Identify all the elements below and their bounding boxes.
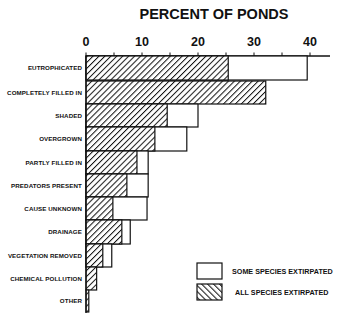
bar-all-species (86, 151, 137, 174)
bar-all-species (86, 56, 228, 80)
x-tick-label: 40 (303, 35, 317, 49)
category-label: CAUSE UNKNOWN (24, 205, 82, 212)
category-label: DRAINAGE (48, 228, 82, 235)
category-label: SHADED (55, 112, 82, 119)
category-label: OTHER (60, 297, 83, 304)
bar-row (86, 127, 187, 151)
category-label: EUTROPHICATED (28, 64, 83, 71)
category-label: OVERGROWN (39, 135, 82, 142)
bar-all-species (86, 267, 97, 290)
bar-all-species (86, 220, 122, 244)
category-labels: EUTROPHICATEDCOMPLETELY FILLED INSHADEDO… (7, 64, 82, 304)
bar-all-species (86, 104, 167, 127)
category-label: PARTLY FILLED IN (26, 159, 83, 166)
x-tick-label: 20 (191, 35, 205, 49)
category-label: PREDATORS PRESENT (11, 182, 82, 189)
bar-row (86, 220, 130, 244)
bar-row (86, 56, 307, 80)
bar-row (86, 267, 97, 290)
bar-chart: PERCENT OF PONDS 010203040 EUTROPHICATED… (0, 0, 343, 321)
category-label: VEGETATION REMOVED (8, 252, 83, 259)
legend-label-all: ALL SPECIES EXTIRPATED (235, 288, 328, 297)
bar-row (86, 174, 148, 197)
bar-all-species (86, 127, 155, 151)
legend-label-some: SOME SPECIES EXTIRPATED (232, 267, 333, 276)
bar-row (86, 244, 112, 267)
legend-swatch-open (197, 263, 222, 279)
bar-row (86, 104, 198, 127)
bar-all-species (86, 244, 103, 267)
x-tick-label: 30 (247, 35, 261, 49)
bar-all-species (86, 197, 113, 220)
category-label: CHEMICAL POLLUTION (10, 275, 82, 282)
bar-all-species (86, 81, 266, 104)
x-axis: 010203040 (83, 35, 330, 56)
chart-title: PERCENT OF PONDS (139, 6, 288, 22)
legend: SOME SPECIES EXTIRPATED ALL SPECIES EXTI… (197, 263, 333, 300)
x-tick-label: 0 (83, 35, 90, 49)
legend-swatch-hatched (197, 284, 222, 300)
bar-row (86, 151, 148, 174)
category-label: COMPLETELY FILLED IN (7, 89, 82, 96)
bar-all-species (86, 174, 127, 197)
bar-row (86, 197, 147, 220)
bar-row (86, 81, 266, 104)
x-tick-label: 10 (135, 35, 149, 49)
